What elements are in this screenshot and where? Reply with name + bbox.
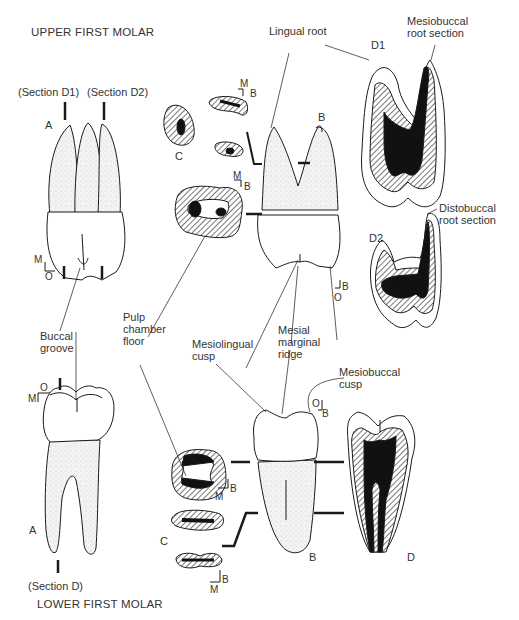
section-d-marker: (Section D) (28, 580, 83, 592)
upper-view-b-label: B (318, 111, 325, 123)
orientation-o: O (45, 271, 53, 283)
orientation-m: M (34, 254, 42, 266)
lower-view-d-label: D (407, 551, 415, 563)
lower-view-b-label: B (309, 551, 316, 563)
upper-molar-section-d1 (362, 60, 446, 207)
orientation-b: B (342, 281, 349, 293)
annotation-mesiobuccal-cusp: Mesiobuccal cusp (339, 366, 400, 390)
orientation-o: O (312, 398, 320, 410)
annotation-lingual-root: Lingual root (269, 25, 327, 37)
lower-view-c-label: C (160, 535, 168, 547)
section-d1-marker: (Section D1) (18, 86, 79, 98)
upper-molar-section-d2 (370, 214, 441, 328)
orientation-b: B (322, 408, 329, 420)
lower-molar-view-a (38, 378, 114, 573)
lower-molar-section-d (347, 412, 414, 552)
annotation-mesiolingual-cusp: Mesiolingual cusp (192, 338, 253, 362)
annotation-pulp-chamber-floor: Pulp chamber floor (123, 311, 166, 347)
section-d2-marker: (Section D2) (87, 86, 148, 98)
upper-view-c-label: C (175, 150, 183, 162)
annotation-mesiobuccal-root-section: Mesiobuccal root section (407, 15, 468, 39)
annotation-distobuccal-root-section: Distobuccal root section (439, 202, 496, 226)
orientation-b: B (230, 483, 237, 495)
upper-molar-view-a (45, 102, 125, 280)
orientation-b: B (244, 181, 251, 193)
lower-molar-view-b (254, 400, 345, 553)
lower-cross-sections-c (172, 450, 259, 582)
upper-cross-sections-c (164, 89, 262, 238)
upper-view-d2-label: D2 (369, 232, 383, 244)
orientation-m: M (28, 393, 36, 405)
annotation-buccal-groove: Buccal groove (40, 330, 74, 354)
lower-molar-title: LOWER FIRST MOLAR (37, 598, 163, 610)
orientation-m: M (240, 78, 248, 90)
orientation-m: M (215, 491, 223, 503)
orientation-m: M (210, 584, 218, 596)
upper-molar-title: UPPER FIRST MOLAR (31, 26, 154, 38)
orientation-o: O (334, 292, 342, 304)
lower-view-a-label: A (29, 524, 36, 536)
orientation-m: M (233, 170, 241, 182)
upper-view-a-label: A (45, 119, 52, 131)
orientation-o: O (40, 382, 48, 394)
upper-view-d1-label: D1 (371, 39, 385, 51)
orientation-b: B (222, 574, 229, 586)
upper-molar-view-b (258, 126, 340, 288)
annotation-mesial-marginal-ridge: Mesial marginal ridge (278, 324, 320, 360)
orientation-b: B (250, 88, 257, 100)
